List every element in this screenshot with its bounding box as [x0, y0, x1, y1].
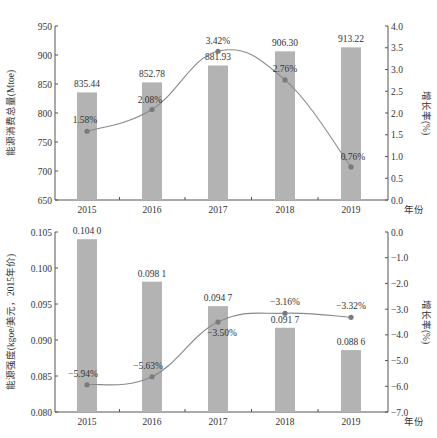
bar-value-label: 852.78 [139, 69, 165, 79]
line-marker [84, 382, 89, 387]
bar-value-label: 0.104 0 [73, 226, 102, 236]
y2-tick-label: −4.0 [391, 330, 408, 340]
x-tick-label: 2018 [276, 205, 295, 215]
y-tick-label: 0.085 [31, 372, 53, 382]
line-value-label: 0.76% [341, 152, 366, 162]
x-axis-title: 年份 [404, 204, 424, 215]
y2-tick-label: −3.0 [391, 305, 408, 315]
bar-value-label: 835.44 [74, 79, 100, 89]
y-tick-label: 750 [38, 138, 53, 148]
x-tick-label: 2015 [78, 205, 97, 215]
y-tick-label: 800 [38, 109, 53, 119]
line-marker [215, 49, 220, 54]
y-tick-label: 700 [38, 167, 53, 177]
bar-value-label: 0.098 1 [138, 269, 167, 279]
chart-energy-consumption: 6507007508008509009500.00.51.01.52.02.53… [5, 22, 432, 216]
line-value-label: −5.63% [133, 361, 163, 371]
y2-tick-label: −7.0 [391, 408, 408, 418]
bar-2017 [208, 65, 228, 200]
chart-figure: 6507007508008509009500.00.51.01.52.02.53… [0, 0, 437, 438]
x-tick-label: 2017 [209, 417, 228, 427]
x-tick-label: 2017 [209, 205, 228, 215]
y2-axis-title: 增长率(%) [420, 300, 432, 344]
y2-tick-label: 0.0 [391, 228, 403, 238]
y2-tick-label: 2.0 [391, 109, 403, 119]
x-tick-label: 2015 [78, 417, 97, 427]
bar-2016 [142, 282, 162, 412]
y2-axis-title: 增长率(%) [420, 91, 432, 135]
y2-tick-label: −6.0 [391, 382, 408, 392]
bar-value-label: 881.93 [205, 52, 231, 62]
y-tick-label: 0.080 [31, 408, 53, 418]
y-tick-label: 850 [38, 80, 53, 90]
bar-2018 [275, 328, 295, 412]
line-marker [282, 77, 287, 82]
y-tick-label: 0.090 [31, 336, 53, 346]
y2-tick-label: 0.5 [391, 174, 403, 184]
y-tick-label: 0.105 [31, 228, 53, 238]
bar-2015 [77, 92, 97, 200]
y2-tick-label: 3.5 [391, 43, 403, 53]
line-value-label: 1.58% [73, 115, 98, 125]
y2-tick-label: −2.0 [391, 279, 408, 289]
y-tick-label: 650 [38, 196, 53, 206]
line-marker [149, 374, 154, 379]
y2-tick-label: 1.0 [391, 152, 403, 162]
bar-value-label: 0.094 7 [204, 293, 233, 303]
y2-tick-label: 1.5 [391, 130, 403, 140]
line-marker [215, 319, 220, 324]
line-value-label: −3.16% [270, 297, 300, 307]
y2-tick-label: −5.0 [391, 356, 408, 366]
x-tick-label: 2016 [143, 205, 162, 215]
line-marker [84, 129, 89, 134]
y2-tick-label: −1.0 [391, 253, 408, 263]
x-tick-label: 2019 [342, 205, 361, 215]
bar-value-label: 913.22 [338, 34, 364, 44]
line-marker [348, 315, 353, 320]
y-tick-label: 0.095 [31, 300, 53, 310]
bar-2019 [341, 350, 361, 412]
line-value-label: 2.76% [273, 64, 298, 74]
line-value-label: −5.94% [68, 369, 98, 379]
line-marker [348, 164, 353, 169]
x-tick-label: 2016 [143, 417, 162, 427]
y-tick-label: 0.100 [31, 264, 53, 274]
bar-2019 [341, 47, 361, 200]
y-tick-label: 900 [38, 51, 53, 61]
bar-value-label: 906.30 [272, 38, 298, 48]
y2-tick-label: 0.0 [391, 196, 403, 206]
x-tick-label: 2018 [276, 417, 295, 427]
bar-value-label: 0.088 6 [337, 337, 366, 347]
y2-tick-label: 4.0 [391, 22, 403, 32]
line-value-label: 2.08% [138, 95, 163, 105]
line-value-label: 3.42% [206, 36, 231, 46]
bar-value-label: 0.091 7 [271, 315, 300, 325]
line-marker [282, 311, 287, 316]
y-axis-title: 能源消费总量(Mtoe) [5, 70, 17, 156]
x-tick-label: 2019 [342, 417, 361, 427]
chart-energy-intensity: 0.0800.0850.0900.0950.1000.105−7.0−6.0−5… [5, 226, 432, 427]
line-value-label: −3.50% [207, 328, 237, 338]
y2-tick-label: 2.5 [391, 87, 403, 97]
line-value-label: −3.32% [336, 301, 366, 311]
line-marker [149, 107, 154, 112]
x-axis-title: 年份 [404, 416, 424, 427]
y-axis-title: 能源强度(kgoe/美元，2015年价) [5, 254, 17, 390]
y2-tick-label: 3.0 [391, 65, 403, 75]
y-tick-label: 950 [38, 22, 53, 32]
